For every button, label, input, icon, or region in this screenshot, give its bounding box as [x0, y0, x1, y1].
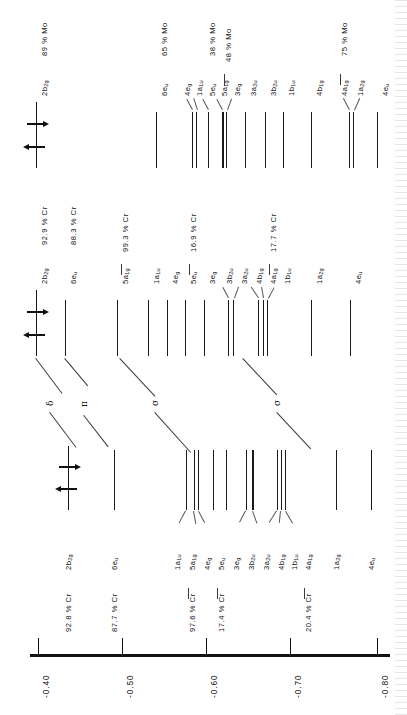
level-label: 4eu	[355, 272, 363, 284]
level-label: 3a2u	[250, 81, 258, 96]
correlation-line	[83, 415, 108, 447]
level-label: 4a1g	[270, 269, 278, 284]
level-line	[245, 112, 246, 168]
axis-tick-label: -0.50	[126, 674, 134, 698]
leader-line	[239, 511, 246, 523]
leader-line	[234, 287, 239, 299]
label-connector	[188, 588, 189, 599]
correlation-line	[276, 412, 311, 449]
level-line	[263, 300, 264, 356]
label-connector	[340, 74, 341, 85]
spin-down-electron	[28, 146, 45, 148]
axis-tick	[122, 638, 123, 655]
leader-line	[279, 511, 281, 523]
level-line	[117, 300, 118, 356]
level-label: 3b2u	[248, 555, 256, 570]
level-label: 6eu	[70, 272, 78, 284]
composition-label: 92.9 % Cr	[41, 206, 49, 245]
leader-line	[343, 98, 350, 110]
leader-line	[269, 510, 277, 522]
composition-label: 65 % Mo	[161, 22, 169, 56]
level-label: 5a1g	[122, 269, 130, 284]
level-line	[114, 450, 115, 510]
leader-line	[186, 99, 193, 110]
level-line	[350, 300, 351, 356]
correlation-line	[154, 412, 191, 453]
composition-label: 88.3 % Cr	[70, 206, 78, 245]
correlation-line	[119, 358, 155, 397]
level-line	[228, 300, 229, 356]
level-label: 4eu	[382, 84, 390, 96]
level-label: 4b1g	[278, 555, 286, 570]
composition-label: 48 % Mo	[225, 28, 233, 62]
axis-line	[30, 654, 390, 657]
level-line	[194, 450, 195, 510]
level-label: 3eg	[233, 558, 241, 570]
leader-line	[268, 287, 275, 298]
level-line	[186, 450, 187, 510]
leader-line	[261, 287, 264, 298]
level-line	[226, 450, 227, 510]
level-label: 1a2g	[316, 269, 324, 284]
leader-line	[251, 287, 259, 298]
level-line	[196, 112, 197, 168]
spin-up-electron	[27, 123, 44, 125]
level-label: 4eg	[172, 272, 180, 284]
level-line	[267, 300, 268, 356]
leader-line	[179, 511, 186, 524]
level-label: 4eu	[368, 558, 376, 570]
correlation-line	[49, 412, 76, 448]
level-line	[277, 450, 278, 510]
level-label: 4eg	[184, 84, 192, 96]
level-label: 4b1g	[256, 269, 264, 284]
composition-label: 97.6 % Cr	[189, 593, 197, 632]
composition-label: 99.3 % Cr	[122, 213, 130, 252]
level-line	[213, 450, 214, 510]
level-label: 5a1g	[189, 555, 197, 570]
leader-line	[227, 99, 232, 111]
level-line	[36, 290, 37, 356]
level-line	[258, 300, 259, 356]
symmetry-label-sigma: σ	[151, 400, 160, 406]
level-label: 1b1u	[291, 555, 299, 570]
composition-label: 16.9 % Cr	[190, 213, 198, 252]
leader-line	[202, 99, 209, 110]
level-line	[336, 450, 337, 510]
level-line	[285, 450, 286, 510]
composition-label: 38 % Mo	[209, 22, 217, 56]
level-label: 4b1g	[316, 81, 324, 96]
axis-tick-label: -0.40	[42, 674, 50, 698]
level-line	[65, 300, 66, 356]
leader-line	[285, 511, 293, 524]
leader-line	[354, 98, 360, 110]
level-line	[36, 102, 37, 168]
level-label: 1a2g	[333, 555, 341, 570]
composition-label: 20.4 % Cr	[305, 593, 313, 632]
level-line	[353, 112, 354, 168]
level-line	[281, 450, 282, 510]
level-label: 1a1u	[153, 269, 161, 284]
level-label: 5a1g	[221, 81, 229, 96]
leader-line	[216, 99, 223, 110]
axis-tick-label: -0.70	[294, 674, 302, 698]
correlation-line	[64, 358, 88, 386]
level-label: 3eg	[234, 84, 242, 96]
leader-line	[252, 511, 257, 524]
level-line	[246, 450, 247, 510]
level-label: 2b2g	[41, 269, 49, 284]
symmetry-label-delta: δ	[46, 401, 55, 406]
level-line	[167, 300, 168, 356]
level-line	[283, 112, 284, 168]
spin-up-electron	[59, 466, 76, 468]
symmetry-label-sigma: σ	[273, 400, 282, 406]
level-line	[371, 450, 372, 510]
axis-tick	[206, 638, 207, 655]
level-label: 2b2g	[65, 555, 73, 570]
axis-tick	[377, 638, 378, 655]
level-label: 3eg	[209, 272, 217, 284]
level-label: 1b1u	[288, 81, 296, 96]
level-line	[204, 300, 205, 356]
level-label: 4a1g	[305, 555, 313, 570]
level-line	[148, 300, 149, 356]
leader-line	[193, 511, 196, 524]
